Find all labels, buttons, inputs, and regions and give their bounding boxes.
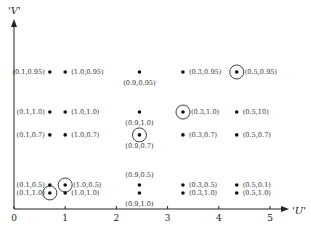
data-point: (0.5,10): [235, 108, 269, 116]
point-label: (1.0,1.0): [71, 108, 100, 116]
x-axis-label: 'U': [292, 205, 306, 216]
point-dot: [48, 110, 52, 114]
data-point: (0.9,1.0): [125, 110, 154, 127]
y-axis-arrow-icon: [11, 19, 17, 27]
point-dot: [63, 110, 67, 114]
point-dot: [138, 191, 142, 195]
data-point: (0.1,0.7): [17, 131, 52, 139]
point-dot: [235, 183, 239, 187]
data-point: (0.9,0.7): [125, 128, 154, 150]
point-label: (1.0,0.5): [73, 181, 102, 189]
data-point: (0.5,0.95): [230, 65, 278, 79]
point-dot: [181, 110, 185, 114]
point-dot: [235, 110, 239, 114]
data-point: (1.0,0.95): [63, 68, 104, 76]
point-label: (0.5,1.0): [243, 189, 272, 197]
data-point: (0.5,1.0): [235, 189, 271, 197]
x-tick-label: 3: [165, 213, 171, 223]
data-point: (1.0,1.0): [63, 108, 99, 116]
point-dot: [181, 70, 185, 74]
point-label: (1.0,0.7): [71, 131, 100, 139]
x-tick-label: 2: [114, 213, 120, 223]
point-dot: [138, 183, 142, 187]
point-label: (0.9,1.0): [125, 119, 154, 127]
point-dot: [138, 70, 142, 74]
point-dot: [63, 70, 67, 74]
point-label: (0.5,10): [243, 108, 270, 116]
point-dot: [48, 191, 52, 195]
x-tick-label: 1: [62, 213, 68, 223]
data-point: (0.5,0.7): [235, 131, 271, 139]
point-label: (0.3,0.5): [189, 181, 218, 189]
data-point: (0.1,1.0): [17, 108, 52, 116]
data-point: (0.3,1.0): [181, 189, 217, 197]
point-dot: [63, 133, 67, 137]
data-point: (0.1,0.95): [12, 68, 51, 76]
data-point: (0.1,0.5): [17, 181, 52, 189]
point-label: (0.5,0.7): [243, 131, 272, 139]
point-label: (0.9,0.95): [123, 79, 156, 87]
point-dot: [235, 133, 239, 137]
point-label: (0.1,0.95): [12, 68, 45, 76]
data-point: (0.3,0.5): [181, 181, 217, 189]
y-axis-label: 'V': [8, 5, 21, 16]
point-dot: [138, 110, 142, 114]
data-point: (0.3,0.95): [181, 68, 222, 76]
point-dot: [48, 70, 52, 74]
x-tick-label: 5: [267, 213, 273, 223]
point-dot: [138, 133, 142, 137]
point-label: (0.1,1.0): [17, 108, 46, 116]
data-point: (1.0,1.0): [63, 189, 99, 197]
point-label: (0.9,0.7): [125, 142, 154, 150]
data-point: (0.5,0.1): [235, 181, 271, 189]
point-label: (0.5,0.95): [245, 68, 278, 76]
point-label: (0.9,0.5): [125, 171, 154, 179]
point-dot: [235, 70, 239, 74]
point-dot: [181, 183, 185, 187]
point-dot: [48, 133, 52, 137]
point-dot: [181, 191, 185, 195]
data-point: (0.3,1.0): [176, 105, 220, 119]
data-point: (0.3,0.7): [181, 131, 217, 139]
point-dot: [181, 133, 185, 137]
points: (0.1,0.95)(1.0,0.95)(0.9,0.95)(0.3,0.95)…: [12, 65, 277, 208]
data-point: (0.9,0.95): [123, 70, 156, 87]
point-label: (1.0,0.95): [71, 68, 104, 76]
x-tick-label: 0: [11, 213, 17, 223]
point-label: (0.3,1.0): [189, 189, 218, 197]
x-tick-label: 4: [216, 213, 222, 223]
point-label: (0.3,0.95): [189, 68, 222, 76]
data-point: (0.9,0.5): [125, 171, 154, 187]
point-label: (0.9,1.0): [125, 200, 154, 208]
point-label: (0.5,0.1): [243, 181, 272, 189]
data-point: (0.9,1.0): [125, 191, 154, 208]
x-axis-arrow-icon: [281, 206, 289, 212]
point-label: (1.0,1.0): [71, 189, 100, 197]
data-point: (1.0,0.7): [63, 131, 99, 139]
point-label: (0.1,0.5): [17, 181, 46, 189]
point-dot: [235, 191, 239, 195]
point-dot: [63, 183, 67, 187]
point-label: (0.1,0.7): [17, 131, 46, 139]
point-label: (0.3,1.0): [191, 108, 220, 116]
point-dot: [63, 191, 67, 195]
point-label: (0.3,0.7): [189, 131, 218, 139]
point-label: (0.1,1.0): [17, 189, 46, 197]
scatter-chart: 'U' 'V' 012345 (0.1,0.95)(1.0,0.95)(0.9,…: [0, 0, 311, 238]
